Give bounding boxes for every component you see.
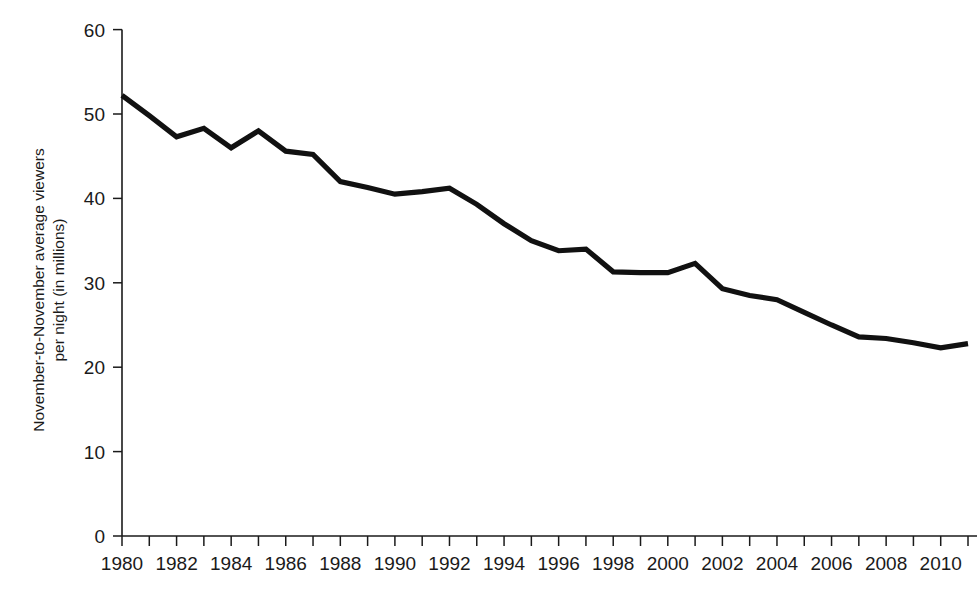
- y-tick-label: 60: [84, 20, 105, 41]
- y-tick-label: 10: [84, 442, 105, 463]
- x-tick-label: 1986: [265, 553, 307, 574]
- x-tick-label: 2002: [701, 553, 743, 574]
- x-tick-label: 1992: [428, 553, 470, 574]
- x-tick-label: 1996: [538, 553, 580, 574]
- x-tick-label: 2000: [647, 553, 689, 574]
- x-tick-label: 2006: [810, 553, 852, 574]
- x-tick-label: 2010: [920, 553, 962, 574]
- x-tick-label: 1994: [483, 553, 526, 574]
- x-tick-label: 1988: [319, 553, 361, 574]
- x-tick-label: 2008: [865, 553, 907, 574]
- line-chart: November-to-November average viewersper …: [0, 0, 977, 599]
- x-tick-label: 2004: [756, 553, 799, 574]
- y-tick-label: 40: [84, 188, 105, 209]
- y-tick-label: 0: [94, 526, 105, 547]
- y-tick-label: 50: [84, 104, 105, 125]
- x-tick-label: 1984: [210, 553, 253, 574]
- chart-background: [0, 0, 977, 599]
- x-tick-label: 1990: [374, 553, 416, 574]
- y-axis-title-line1: November-to-November average viewers: [30, 148, 47, 432]
- chart-container: November-to-November average viewersper …: [0, 0, 977, 599]
- y-axis-title-line2: per night (in millions): [50, 219, 67, 362]
- x-tick-label: 1982: [155, 553, 197, 574]
- x-tick-label: 1980: [101, 553, 143, 574]
- y-tick-label: 20: [84, 357, 105, 378]
- x-tick-label: 1998: [592, 553, 634, 574]
- y-tick-label: 30: [84, 273, 105, 294]
